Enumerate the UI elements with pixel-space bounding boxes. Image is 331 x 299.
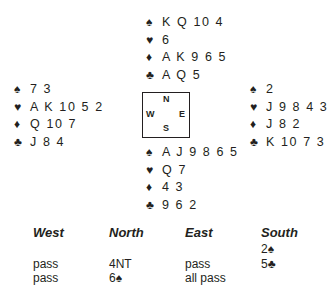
auction-row: 2♠: [33, 242, 331, 257]
south-hearts: Q 7: [162, 163, 187, 177]
header-east: East: [185, 223, 261, 242]
heart-icon: ♥: [14, 99, 30, 117]
east-spades: 2: [266, 82, 275, 96]
south-clubs: 9 6 2: [162, 198, 198, 212]
bid-cell: [261, 271, 331, 286]
bid-cell: [109, 242, 185, 257]
diamond-icon: ♦: [250, 116, 266, 134]
header-west: West: [33, 223, 109, 242]
west-hearts: A K 10 5 2: [30, 100, 104, 114]
auction-header: West North East South: [33, 223, 331, 242]
bid-cell: all pass: [185, 271, 261, 286]
west-clubs: J 8 4: [30, 135, 65, 149]
club-icon: ♣: [146, 197, 162, 215]
north-spades: K Q 10 4: [162, 15, 224, 29]
bid-cell: 6♠: [109, 271, 185, 286]
north-hand: ♠K Q 10 4 ♥6 ♦A K 9 6 5 ♣A Q 5: [146, 14, 227, 84]
header-north: North: [109, 223, 185, 242]
club-icon: ♣: [250, 134, 266, 152]
header-south: South: [261, 223, 331, 242]
bid-cell: pass: [185, 257, 261, 272]
bid-cell: [185, 242, 261, 257]
club-icon: ♣: [146, 67, 162, 85]
north-diamonds: A K 9 6 5: [162, 50, 227, 64]
compass-south: S: [163, 123, 169, 133]
compass-box: N W E S: [142, 92, 190, 138]
club-icon: ♣: [14, 134, 30, 152]
north-hearts: 6: [162, 33, 171, 47]
diamond-icon: ♦: [146, 179, 162, 197]
east-clubs: K 10 7 3: [266, 135, 325, 149]
west-spades: 7 3: [30, 82, 52, 96]
west-hand: ♠7 3 ♥A K 10 5 2 ♦Q 10 7 ♣J 8 4: [14, 81, 104, 151]
spade-icon: ♠: [14, 81, 30, 99]
spade-icon: ♠: [250, 81, 266, 99]
auction-row: pass 4NT pass 5♣: [33, 257, 331, 272]
bid-cell: pass: [33, 271, 109, 286]
south-hand: ♠A J 9 8 6 5 ♥Q 7 ♦4 3 ♣9 6 2: [146, 144, 239, 214]
diamond-icon: ♦: [146, 49, 162, 67]
spade-icon: ♠: [146, 14, 162, 32]
auction-table: West North East South 2♠ pass 4NT pass 5…: [33, 223, 331, 286]
north-clubs: A Q 5: [162, 68, 201, 82]
bid-cell: 2♠: [261, 242, 331, 257]
bid-cell: [33, 242, 109, 257]
bid-cell: 4NT: [109, 257, 185, 272]
south-spades: A J 9 8 6 5: [162, 145, 239, 159]
heart-icon: ♥: [146, 162, 162, 180]
east-hearts: J 9 8 4 3: [266, 100, 328, 114]
east-diamonds: J 8 2: [266, 117, 301, 131]
compass-east: E: [179, 109, 185, 119]
compass-north: N: [163, 94, 170, 104]
bid-cell: pass: [33, 257, 109, 272]
south-diamonds: 4 3: [162, 180, 184, 194]
spade-icon: ♠: [146, 144, 162, 162]
compass-west: W: [146, 109, 155, 119]
east-hand: ♠2 ♥J 9 8 4 3 ♦J 8 2 ♣K 10 7 3: [250, 81, 328, 151]
bid-cell: 5♣: [261, 257, 331, 272]
heart-icon: ♥: [250, 99, 266, 117]
diamond-icon: ♦: [14, 116, 30, 134]
auction-row: pass 6♠ all pass: [33, 271, 331, 286]
heart-icon: ♥: [146, 32, 162, 50]
west-diamonds: Q 10 7: [30, 117, 77, 131]
